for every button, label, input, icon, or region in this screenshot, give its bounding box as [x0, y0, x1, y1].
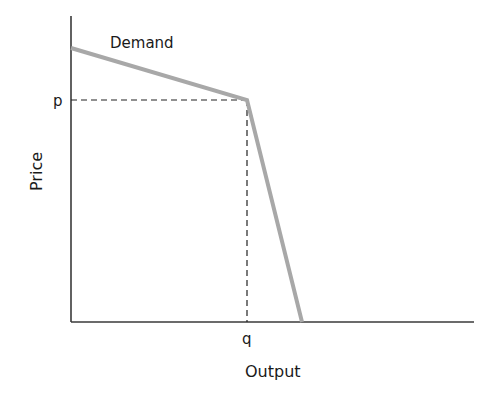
demand-curve: [71, 48, 302, 322]
demand-label: Demand: [110, 34, 174, 52]
y-tick-label-p: p: [53, 92, 63, 110]
y-axis-title: Price: [27, 152, 46, 191]
x-tick-label-q: q: [242, 330, 252, 348]
kinked-demand-diagram: Demand p q Output Price: [0, 0, 495, 408]
x-axis-title: Output: [245, 362, 301, 381]
